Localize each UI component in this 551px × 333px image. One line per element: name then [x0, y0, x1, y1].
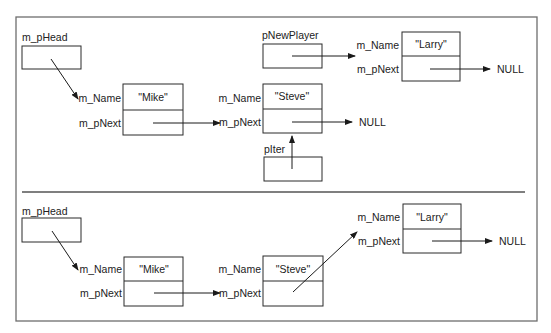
head-pointer-label: m_pHead: [22, 31, 68, 43]
node-value: "Larry": [415, 38, 447, 50]
node-larry: m_Name m_pNext "Larry" NULL: [356, 32, 524, 81]
node-value: "Steve": [276, 263, 311, 275]
node-next-label: m_pNext: [80, 287, 122, 299]
node-value: "Steve": [275, 90, 310, 102]
linked-list-diagram: m_pHead m_Name m_pNext "Mike" m_Name m_p…: [0, 0, 551, 333]
node-name-label: m_Name: [218, 92, 261, 104]
node-next-label: m_pNext: [79, 117, 121, 129]
node-name-label: m_Name: [357, 211, 400, 223]
node-next-label: m_pNext: [219, 116, 261, 128]
node-name-label: m_Name: [218, 263, 261, 275]
node-value: "Larry": [416, 211, 448, 223]
null-label: NULL: [497, 63, 524, 75]
panel-before: m_pHead m_Name m_pNext "Mike" m_Name m_p…: [22, 29, 524, 181]
null-label: NULL: [359, 116, 386, 128]
iter-pointer-label: pIter: [264, 143, 286, 155]
node-next-label: m_pNext: [358, 235, 400, 247]
null-label: NULL: [499, 235, 526, 247]
node-value: "Mike": [139, 263, 169, 275]
head-pointer-box: [22, 218, 81, 242]
head-pointer-box: [22, 46, 81, 69]
node-value: "Mike": [138, 91, 168, 103]
new-player-pointer-label: pNewPlayer: [262, 29, 319, 41]
node-next-label: m_pNext: [219, 287, 261, 299]
node-next-label: m_pNext: [357, 63, 399, 75]
node-mike: m_Name m_pNext "Mike": [79, 257, 220, 306]
node-name-label: m_Name: [79, 263, 122, 275]
node-name-label: m_Name: [78, 92, 121, 104]
node-name-label: m_Name: [356, 39, 399, 51]
head-pointer-label: m_pHead: [22, 205, 68, 217]
node-mike: m_Name m_pNext "Mike": [78, 84, 220, 135]
iter-pointer-box: [264, 157, 322, 181]
node-steve: m_Name m_pNext "Steve": [218, 232, 357, 306]
node-steve: m_Name m_pNext "Steve" NULL: [218, 84, 386, 133]
panel-after: m_pHead m_Name m_pNext "Mike" m_Name m_p…: [22, 204, 526, 306]
node-larry: m_Name m_pNext "Larry" NULL: [357, 204, 526, 253]
